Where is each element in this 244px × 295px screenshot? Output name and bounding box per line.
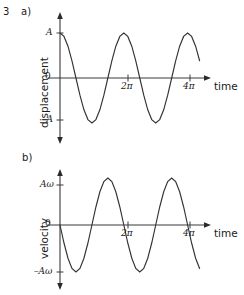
panel-a-ytick-label-minus-A: –A [42,114,53,124]
panel-b-ytick-label-Aw: Aω [40,179,54,189]
shm-graphs-figure: 3 a) displacement [0,0,244,295]
panel-a-svg [0,0,244,148]
panel-a: 3 a) displacement [0,0,244,148]
panel-a-plot [0,0,244,148]
panel-b-ytick-label-zero: 0 [45,218,51,228]
panel-b-y-axis-arrow-bottom [57,283,63,290]
panel-b-xtick-label-2pi: 2π [121,228,133,238]
panel-b-x-axis-label: time [214,227,238,239]
panel-a-y-axis-arrow-bottom [57,137,63,144]
panel-b-ytick-label-minus-Aw: –Aω [34,266,52,276]
panel-a-x-axis-label: time [214,80,238,92]
panel-a-ytick-label-zero: 0 [45,71,51,81]
panel-b-y-axis-arrow-top [57,169,63,176]
panel-b-xtick-label-4pi: 4π [183,228,195,238]
panel-a-x-axis-arrow [204,75,211,81]
panel-a-ytick-label-A: A [46,27,53,37]
panel-b: b) velocity time [0,147,244,295]
panel-a-xtick-label-4pi: 4π [183,81,195,91]
panel-a-y-axis-arrow-top [57,12,63,19]
panel-b-x-axis-arrow [204,222,211,228]
panel-a-xtick-label-2pi: 2π [121,81,133,91]
